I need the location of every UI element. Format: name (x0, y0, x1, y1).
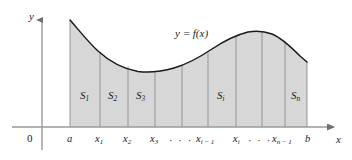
strip-sub-S2: 2 (114, 95, 118, 103)
tick-label-x1: x1 (95, 134, 103, 145)
strip-label-S1: S1 (80, 90, 89, 103)
tick-label-xn-minus-1: xn − 1 (272, 134, 292, 145)
tick-label-x2: x2 (123, 134, 131, 145)
ellipsis-left: · · · (169, 136, 193, 147)
tick-sub-x2: 2 (128, 138, 131, 145)
strip-sub-Sn: n (297, 95, 301, 103)
area-under-curve-figure: y x 0 y = f(x) a x1 x2 x3 xi − 1 xi xn −… (0, 0, 352, 160)
tick-label-xi: xi (233, 134, 240, 145)
tick-sub-x3: 3 (155, 138, 158, 145)
tick-sub-xi-minus-1: i − 1 (201, 138, 215, 145)
strip-label-Si: Si (217, 90, 225, 103)
tick-sub-x1: 1 (100, 138, 103, 145)
origin-label: 0 (27, 133, 33, 144)
tick-label-b: b (305, 134, 310, 145)
ellipsis-right: · · · (248, 136, 272, 147)
tick-base-b: b (305, 133, 310, 144)
strip-label-S3: S3 (136, 90, 145, 103)
tick-label-a: a (67, 134, 72, 145)
tick-label-xi-minus-1: xi − 1 (196, 134, 214, 145)
strip-sub-S3: 3 (142, 95, 146, 103)
tick-label-x3: x3 (150, 134, 158, 145)
tick-sub-xi: i (238, 138, 240, 145)
y-axis-label: y (29, 11, 34, 22)
x-axis-label: x (336, 134, 341, 145)
strip-label-S2: S2 (108, 90, 117, 103)
strip-sub-Si: i (223, 95, 225, 103)
tick-sub-xn-minus-1: n − 1 (277, 138, 292, 145)
function-label: y = f(x) (175, 28, 208, 39)
strip-sub-S1: 1 (86, 95, 90, 103)
tick-base-a: a (67, 133, 72, 144)
strip-label-Sn: Sn (291, 90, 300, 103)
